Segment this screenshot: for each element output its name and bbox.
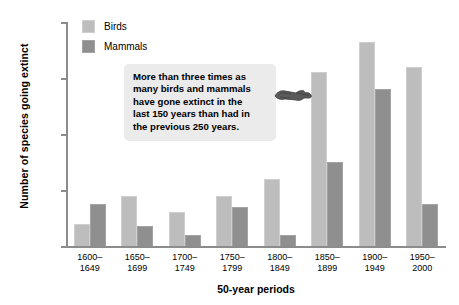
x-tick-label: 1750–1799 (209, 252, 257, 274)
legend: Birds Mammals (82, 20, 147, 60)
legend-item-mammals: Mammals (82, 40, 147, 53)
legend-label-birds: Birds (104, 21, 127, 32)
x-tick-label-line: 1600– (66, 252, 114, 263)
extinction-bar-chart: Number of species going extinct 01020304… (0, 0, 459, 305)
x-tick-label-line: 2000 (399, 263, 447, 274)
x-tick-label-line: 1899 (304, 263, 352, 274)
x-tick-label-line: 1900– (351, 252, 399, 263)
x-tick-label: 1900–1949 (351, 252, 399, 274)
bar-birds (264, 179, 280, 246)
callout-text-line: many birds and mammals (133, 83, 268, 95)
x-tick-label-line: 1850– (304, 252, 352, 263)
x-tick-label: 1600–1649 (66, 252, 114, 274)
callout-text-line: have gone extinct in the (133, 96, 268, 108)
bar-mammals (185, 235, 201, 246)
bar-group (351, 22, 399, 246)
bar-group (304, 22, 352, 246)
bar-birds (121, 196, 137, 246)
bar-mammals (232, 207, 248, 246)
x-tick-label: 1800–1849 (256, 252, 304, 274)
x-tick-label-line: 1650– (114, 252, 162, 263)
callout-text-line: More than three times as (133, 71, 268, 83)
x-tick-label: 1700–1749 (161, 252, 209, 274)
x-tick-label-line: 1649 (66, 263, 114, 274)
bar-mammals (327, 162, 343, 246)
x-axis-line (66, 246, 446, 248)
callout-text: More than three times asmany birds and m… (133, 71, 268, 133)
bar-birds (169, 212, 185, 246)
x-tick-label-line: 1699 (114, 263, 162, 274)
bar-birds (359, 42, 375, 246)
x-tick-label: 1950–2000 (399, 252, 447, 274)
x-tick-label-line: 1750– (209, 252, 257, 263)
bar-birds (74, 224, 90, 246)
x-tick-label-line: 1800– (256, 252, 304, 263)
bar-mammals (280, 235, 296, 246)
x-tick-label-line: 1949 (351, 263, 399, 274)
x-tick-label-line: 1700– (161, 252, 209, 263)
x-tick-label-line: 1849 (256, 263, 304, 274)
x-axis-tick-labels: 1600–16491650–16991700–17491750–17991800… (66, 252, 446, 282)
callout-text-line: last 150 years than had in (133, 108, 268, 120)
x-tick-label-line: 1799 (209, 263, 257, 274)
bar-birds (216, 196, 232, 246)
callout-annotation: More than three times asmany birds and m… (124, 64, 276, 141)
bar-birds (406, 67, 422, 246)
bar-mammals (422, 204, 438, 246)
y-tick-mark (61, 246, 66, 248)
legend-swatch-mammals-icon (82, 40, 95, 53)
bar-group (399, 22, 447, 246)
x-tick-label-line: 1749 (161, 263, 209, 274)
x-axis-title: 50-year periods (66, 283, 446, 295)
legend-item-birds: Birds (82, 20, 147, 33)
x-tick-label: 1650–1699 (114, 252, 162, 274)
bar-mammals (137, 226, 153, 246)
legend-swatch-birds-icon (82, 20, 95, 33)
y-axis-title: Number of species going extinct (18, 6, 30, 246)
x-tick-label: 1850–1899 (304, 252, 352, 274)
callout-text-line: the previous 250 years. (133, 121, 268, 133)
legend-label-mammals: Mammals (104, 41, 147, 52)
bar-mammals (375, 89, 391, 246)
x-tick-label-line: 1950– (399, 252, 447, 263)
bar-mammals (90, 204, 106, 246)
pointing-hand-icon (274, 84, 314, 110)
